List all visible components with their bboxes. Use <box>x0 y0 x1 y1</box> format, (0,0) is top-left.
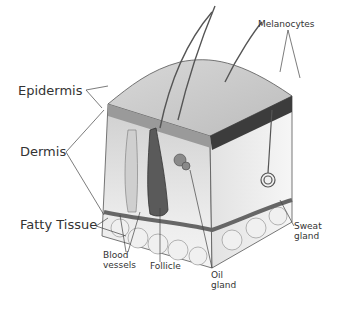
label-fatty-tissue: Fatty Tissue <box>20 218 97 232</box>
label-sweat-gland-line2: gland <box>294 232 322 242</box>
label-follicle: Follicle <box>150 262 181 272</box>
label-blood-vessels: Blood vessels <box>103 251 136 271</box>
label-melanocytes: Melanocytes <box>258 20 315 30</box>
label-oil-gland: Oil gland <box>211 271 236 291</box>
label-oil-gland-line2: gland <box>211 281 236 291</box>
skin-diagram: Epidermis Dermis Fatty Tissue Melanocyte… <box>0 0 339 312</box>
label-epidermis: Epidermis <box>18 84 83 98</box>
label-blood-vessels-line2: vessels <box>103 261 136 271</box>
label-sweat-gland: Sweat gland <box>294 222 322 242</box>
label-dermis: Dermis <box>20 145 66 159</box>
